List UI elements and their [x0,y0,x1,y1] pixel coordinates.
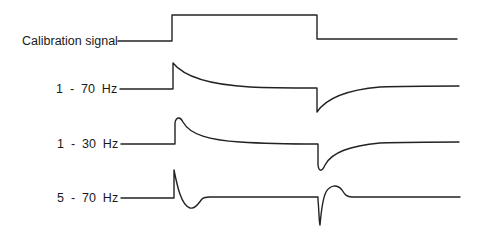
calibration-signal-label: Calibration signal [22,35,118,48]
label-1-70hz: 1 - 70 Hz [56,83,117,96]
label-5-70hz: 5 - 70 Hz [57,192,118,205]
calibration-signal-trace [118,15,457,41]
trace-1-70hz [120,63,459,112]
label-1-30hz: 1 - 30 Hz [57,138,118,151]
trace-5-70hz [121,170,460,225]
trace-1-30hz [121,118,459,170]
filter-response-diagram: Calibration signal 1 - 70 Hz 1 - 30 Hz 5… [0,0,487,236]
